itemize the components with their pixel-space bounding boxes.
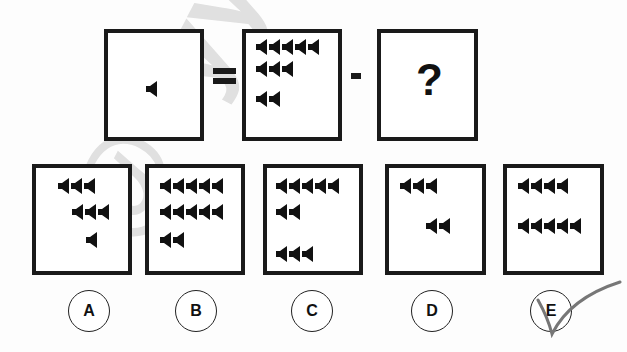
speaker-row [256, 39, 320, 55]
speaker-icon [160, 178, 172, 194]
speaker-icon [295, 39, 307, 55]
speaker-icon [557, 218, 569, 234]
speaker-icon [400, 178, 412, 194]
option-e-box[interactable] [503, 164, 604, 275]
speaker-icon [256, 91, 268, 107]
option-b-box[interactable] [145, 164, 245, 275]
equation-minuend-box [242, 29, 342, 141]
speaker-icon [160, 204, 172, 220]
speaker-row [276, 204, 301, 220]
speaker-icon [570, 218, 582, 234]
speaker-icon [269, 91, 281, 107]
unknown-box: ? [377, 29, 478, 141]
speaker-icon [199, 204, 211, 220]
speaker-row [256, 61, 294, 77]
speaker-icon [71, 178, 83, 194]
speaker-icon [173, 232, 185, 248]
speaker-icon [276, 246, 288, 262]
speaker-icon [256, 61, 268, 77]
option-a-label[interactable]: A [68, 290, 110, 332]
speaker-icon [544, 178, 556, 194]
speaker-icon [84, 178, 96, 194]
speaker-row [400, 178, 438, 194]
speaker-icon [544, 218, 556, 234]
option-d-label[interactable]: D [411, 290, 453, 332]
speaker-icon [72, 204, 84, 220]
speaker-icon [199, 178, 211, 194]
equals-sign-lower [213, 78, 236, 84]
speaker-icon [212, 178, 224, 194]
speaker-row [72, 204, 110, 220]
speaker-icon [282, 61, 294, 77]
speaker-icon [302, 246, 314, 262]
speaker-icon [269, 39, 281, 55]
speaker-row [276, 178, 340, 194]
equals-sign [213, 68, 236, 74]
speaker-icon [439, 218, 451, 234]
speaker-icon [518, 178, 530, 194]
speaker-icon [531, 218, 543, 234]
speaker-icon [86, 232, 98, 248]
option-d-box[interactable] [385, 164, 486, 275]
equation-left-box [104, 29, 204, 141]
speaker-icon [186, 204, 198, 220]
speaker-row [518, 178, 569, 194]
speaker-icon [308, 39, 320, 55]
speaker-icon [315, 178, 327, 194]
speaker-row [86, 232, 98, 248]
speaker-row [276, 246, 314, 262]
speaker-icon [160, 232, 172, 248]
speaker-icon [269, 61, 281, 77]
speaker-icon [58, 178, 70, 194]
speaker-icon [146, 81, 158, 97]
speaker-icon [426, 218, 438, 234]
speaker-icon [173, 204, 185, 220]
speaker-icon [98, 204, 110, 220]
option-a-box[interactable] [32, 164, 132, 275]
speaker-row [426, 218, 451, 234]
checkmark-icon [530, 278, 625, 338]
speaker-row [256, 91, 281, 107]
speaker-row [160, 178, 224, 194]
speaker-row [160, 232, 185, 248]
speaker-icon [426, 178, 438, 194]
question-mark: ? [416, 55, 443, 105]
speaker-icon [282, 39, 294, 55]
speaker-icon [276, 204, 288, 220]
speaker-row [160, 204, 224, 220]
option-c-label[interactable]: C [291, 290, 333, 332]
speaker-icon [328, 178, 340, 194]
speaker-icon [186, 178, 198, 194]
speaker-icon [413, 178, 425, 194]
speaker-icon [531, 178, 543, 194]
option-b-label[interactable]: B [175, 290, 217, 332]
speaker-icon [302, 178, 314, 194]
speaker-icon [557, 178, 569, 194]
minus-sign [351, 73, 361, 79]
speaker-row [58, 178, 96, 194]
speaker-icon [212, 204, 224, 220]
speaker-row [518, 218, 582, 234]
speaker-icon [276, 178, 288, 194]
speaker-icon [289, 204, 301, 220]
speaker-icon [518, 218, 530, 234]
speaker-icon [289, 246, 301, 262]
option-c-box[interactable] [263, 164, 363, 275]
speaker-icon [256, 39, 268, 55]
speaker-icon [85, 204, 97, 220]
speaker-icon [289, 178, 301, 194]
speaker-icon [173, 178, 185, 194]
